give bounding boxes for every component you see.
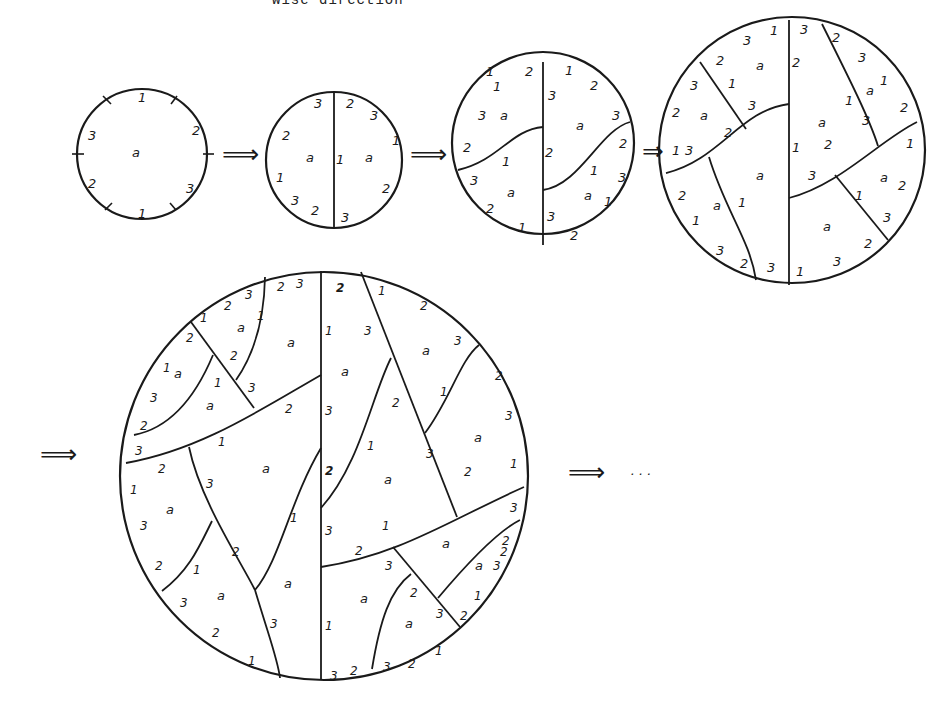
svg-text:3: 3 (833, 254, 841, 269)
svg-text:1: 1 (880, 73, 888, 88)
svg-text:a: a (360, 591, 368, 606)
stage-3-circle: 12 13 23 21 31 23 23 12 32 11 aa aa (452, 52, 634, 245)
svg-text:2: 2 (277, 280, 285, 294)
svg-text:a: a (576, 118, 584, 133)
svg-text:3: 3 (618, 170, 626, 185)
svg-text:3: 3 (270, 617, 278, 631)
svg-text:3: 3 (330, 669, 338, 683)
svg-text:1: 1 (257, 309, 265, 323)
svg-text:a: a (217, 588, 225, 603)
svg-text:2: 2 (724, 125, 732, 140)
svg-text:1: 1 (796, 264, 804, 279)
svg-text:3: 3 (800, 22, 808, 37)
svg-text:2: 2 (382, 181, 390, 196)
svg-text:1: 1 (792, 140, 800, 155)
svg-text:2: 2 (212, 626, 220, 640)
svg-text:3: 3 (314, 96, 322, 111)
svg-text:1: 1 (138, 90, 146, 105)
svg-text:a: a (475, 558, 483, 573)
svg-text:2: 2 (285, 402, 293, 416)
svg-text:3: 3 (743, 33, 751, 48)
implies-arrow: ⟹ (568, 457, 605, 487)
svg-text:3: 3 (612, 108, 620, 123)
svg-text:a: a (700, 108, 708, 123)
svg-text:2: 2 (570, 228, 578, 243)
svg-text:1: 1 (325, 324, 333, 338)
svg-text:2: 2 (792, 55, 800, 70)
svg-text:3: 3 (341, 210, 349, 225)
svg-text:1: 1 (325, 619, 333, 633)
svg-text:1: 1 (738, 195, 746, 210)
svg-text:2: 2 (282, 128, 290, 143)
stage-4-circle: 13 23 21 32 13 23 13 23 21 21 32 32 12 3… (659, 17, 925, 285)
svg-text:2: 2 (325, 464, 333, 478)
svg-text:a: a (756, 58, 764, 73)
svg-text:a: a (287, 335, 295, 350)
svg-text:2: 2 (678, 188, 686, 203)
svg-text:2: 2 (336, 281, 344, 295)
svg-text:1: 1 (163, 361, 171, 375)
svg-text:1: 1 (565, 63, 573, 78)
svg-text:2: 2 (832, 30, 840, 45)
svg-text:3: 3 (767, 260, 775, 275)
svg-text:1: 1 (493, 79, 501, 94)
svg-text:a: a (405, 616, 413, 631)
svg-text:3: 3 (748, 98, 756, 113)
svg-text:3: 3 (858, 50, 866, 65)
svg-text:2: 2 (525, 64, 533, 79)
svg-text:2: 2 (463, 140, 471, 155)
svg-text:1: 1 (248, 654, 256, 668)
svg-text:a: a (866, 83, 874, 98)
svg-text:1: 1 (770, 23, 778, 38)
svg-text:1: 1 (193, 563, 201, 577)
svg-text:1: 1 (367, 439, 375, 453)
svg-text:3: 3 (385, 559, 393, 573)
svg-text:a: a (306, 150, 314, 165)
svg-text:a: a (880, 170, 888, 185)
svg-text:3: 3 (296, 277, 304, 291)
svg-text:1: 1 (474, 589, 482, 603)
svg-text:2: 2 (408, 657, 416, 671)
svg-text:1: 1 (435, 644, 443, 658)
svg-text:3: 3 (245, 288, 253, 302)
implies-arrow: ⟹ (40, 439, 77, 469)
svg-text:1: 1 (845, 93, 853, 108)
svg-text:3: 3 (510, 501, 518, 515)
svg-text:1: 1 (382, 519, 390, 533)
svg-text:1: 1 (518, 220, 526, 235)
svg-text:2: 2 (155, 559, 163, 573)
svg-text:3: 3 (364, 324, 372, 338)
svg-text:2: 2 (350, 664, 358, 678)
svg-text:1: 1 (200, 311, 208, 325)
svg-text:1: 1 (502, 154, 510, 169)
svg-text:1: 1 (378, 284, 386, 298)
ellipsis: · · · (630, 467, 651, 482)
svg-text:a: a (166, 502, 174, 517)
svg-text:3: 3 (135, 444, 143, 458)
svg-text:3: 3 (548, 88, 556, 103)
svg-text:2: 2 (232, 545, 240, 559)
svg-text:a: a (262, 461, 270, 476)
svg-text:2: 2 (898, 178, 906, 193)
svg-text:a: a (422, 343, 430, 358)
svg-text:2: 2 (88, 176, 96, 191)
svg-text:2: 2 (420, 299, 428, 313)
subdivision-diagram: 12 31 23 a ⟹ 32 31 23 23 12 1 aa ⟹ 12 13… (0, 0, 940, 715)
svg-text:1: 1 (336, 152, 344, 167)
svg-text:a: a (823, 219, 831, 234)
stage-2-circle: 32 31 23 23 12 1 aa (266, 92, 402, 228)
svg-text:a: a (756, 168, 764, 183)
svg-text:2: 2 (619, 136, 627, 151)
svg-text:1: 1 (672, 143, 680, 158)
svg-text:3: 3 (370, 108, 378, 123)
svg-text:2: 2 (224, 299, 232, 313)
svg-text:a: a (284, 576, 292, 591)
svg-text:1: 1 (130, 483, 138, 497)
svg-text:3: 3 (206, 477, 214, 491)
svg-text:3: 3 (478, 108, 486, 123)
svg-text:2: 2 (464, 465, 472, 479)
svg-text:a: a (584, 188, 592, 203)
svg-text:3: 3 (248, 381, 256, 395)
svg-text:1: 1 (440, 385, 448, 399)
svg-text:2: 2 (900, 100, 908, 115)
